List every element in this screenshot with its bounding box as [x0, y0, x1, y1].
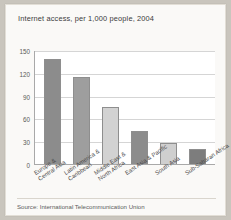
y-tick-label: 0	[26, 162, 30, 169]
y-tick-label: 150	[19, 48, 30, 55]
bar	[44, 59, 61, 164]
figure-card: Internet access, per 1,000 people, 2004 …	[5, 4, 226, 216]
chart-plot-wrapper: 0306090120150	[6, 45, 227, 171]
y-tick-label: 120	[19, 70, 30, 77]
y-axis: 0306090120150	[6, 45, 33, 171]
y-tick-label: 90	[23, 93, 30, 100]
bar-series	[35, 51, 215, 164]
y-tick-label: 60	[23, 116, 30, 123]
bar	[73, 77, 90, 164]
chart-title: Internet access, per 1,000 people, 2004	[18, 14, 154, 23]
source-note: Source: International Telecommunication …	[17, 203, 145, 210]
y-tick-label: 30	[23, 139, 30, 146]
source-divider	[17, 198, 216, 199]
plot-area	[34, 51, 215, 165]
